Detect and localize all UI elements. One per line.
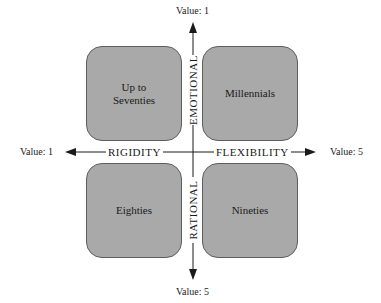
quadrant-bottom-right: Nineties [202, 163, 298, 258]
axis-label-flexibility: FLEXIBILITY [214, 146, 291, 158]
left-arrow-icon [65, 148, 76, 156]
value-label-bottom: Value: 5 [176, 286, 209, 298]
quadrant-label-eighties: Eighties [116, 204, 152, 217]
up-arrow-icon [189, 22, 197, 33]
quadrant-top-left: Up to Seventies [86, 46, 182, 141]
quadrant-label-nineties: Nineties [232, 204, 269, 217]
quadrant-bottom-left: Eighties [86, 163, 182, 258]
quadrant-top-right: Millennials [202, 46, 298, 141]
right-arrow-icon [305, 148, 316, 156]
axis-label-rational: RATIONAL [187, 177, 199, 243]
quadrant-label-up-to-seventies: Up to Seventies [113, 81, 155, 107]
quadrant-label-millennials: Millennials [225, 87, 275, 100]
axes [0, 0, 381, 303]
down-arrow-icon [189, 269, 197, 280]
value-label-right: Value: 5 [330, 146, 363, 158]
axis-label-rigidity: RIGIDITY [106, 146, 163, 158]
value-label-top: Value: 1 [176, 5, 209, 17]
value-label-left: Value: 1 [20, 146, 53, 158]
axis-label-emotional: EMOTIONAL [187, 55, 199, 125]
